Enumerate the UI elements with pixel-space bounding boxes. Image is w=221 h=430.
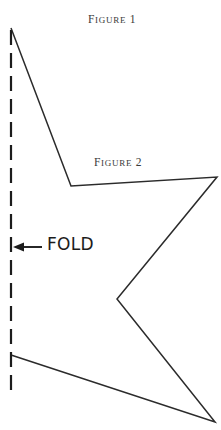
figure-canvas: FIGURE 1 FIGURE 2 FOLD <box>0 0 221 430</box>
figure-1-caption-smallcaps: IGURE <box>95 15 126 25</box>
figure-2-number: 2 <box>136 156 142 168</box>
figure-2-caption-smallcaps: IGURE <box>101 158 132 168</box>
figure-drawing <box>0 0 221 430</box>
figure-2-caption: FIGURE 2 <box>94 153 142 169</box>
figure-1-caption: FIGURE 1 <box>88 10 136 26</box>
fold-arrow-icon <box>13 242 42 251</box>
fold-label: FOLD <box>47 236 94 253</box>
star-outline-path <box>11 28 217 422</box>
figure-1-number: 1 <box>130 13 136 25</box>
